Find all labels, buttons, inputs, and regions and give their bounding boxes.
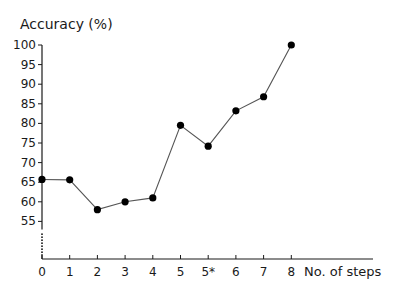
y-tick-label: 80 — [21, 116, 36, 130]
y-tick-label: 60 — [21, 195, 36, 209]
data-point-marker — [288, 41, 295, 48]
axis-break-dot — [41, 239, 43, 241]
axis-break-dot — [41, 236, 43, 238]
data-point-marker — [66, 176, 73, 183]
y-tick-label: 70 — [21, 156, 36, 170]
y-tick-label: 85 — [21, 97, 36, 111]
y-axis-title: Accuracy (%) — [20, 16, 113, 32]
x-tick-label: 2 — [94, 265, 102, 279]
axis-break-dot — [41, 245, 43, 247]
data-point-marker — [149, 194, 156, 201]
x-tick-label: 1 — [66, 265, 74, 279]
series-line — [42, 45, 291, 210]
axis-break-dot — [41, 242, 43, 244]
data-series — [38, 41, 295, 213]
y-tick-label: 90 — [21, 77, 36, 91]
x-axis-title: No. of steps — [304, 264, 381, 279]
axis-break-dot — [41, 233, 43, 235]
x-tick-label: 3 — [121, 265, 129, 279]
line-chart: Accuracy (%) 556065707580859095100 01234… — [0, 0, 393, 293]
x-tick-label: 0 — [38, 265, 46, 279]
axis-break-dot — [41, 248, 43, 250]
y-tick-label: 75 — [21, 136, 36, 150]
data-point-marker — [232, 107, 239, 114]
y-tick-label: 55 — [21, 214, 36, 228]
data-point-marker — [177, 122, 184, 129]
data-point-marker — [94, 206, 101, 213]
y-axis: 556065707580859095100 — [13, 38, 43, 259]
data-point-marker — [205, 143, 212, 150]
x-tick-label: 4 — [149, 265, 157, 279]
x-tick-label: 8 — [287, 265, 295, 279]
y-tick-label: 65 — [21, 175, 36, 189]
data-point-marker — [260, 93, 267, 100]
x-tick-label: 6 — [232, 265, 240, 279]
x-tick-label: 5* — [201, 265, 215, 279]
axis-break-dot — [41, 251, 43, 253]
y-tick-label: 95 — [21, 58, 36, 72]
x-tick-label: 7 — [260, 265, 268, 279]
data-point-marker — [122, 198, 129, 205]
y-tick-label: 100 — [13, 38, 36, 52]
x-tick-label: 5 — [177, 265, 185, 279]
data-point-marker — [38, 176, 45, 183]
